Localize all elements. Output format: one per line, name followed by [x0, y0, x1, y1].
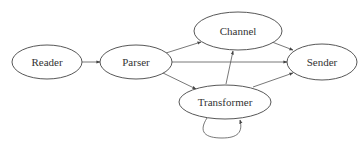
node-sender[interactable]: Sender: [287, 44, 357, 80]
node-parser[interactable]: Parser: [100, 45, 172, 79]
edge-parser-transformer: [163, 73, 196, 89]
edge-transformer-sender: [253, 73, 293, 87]
node-label: Reader: [31, 56, 62, 68]
graph-svg: Reader Parser Channel Sender Transformer: [0, 0, 363, 147]
node-label: Parser: [122, 56, 150, 68]
edge-transformer-self-loop: [203, 118, 241, 138]
diagram-canvas: Reader Parser Channel Sender Transformer: [0, 0, 363, 147]
edge-parser-channel: [166, 42, 201, 53]
node-label: Transformer: [198, 96, 253, 108]
edge-channel-sender: [272, 42, 293, 50]
node-transformer[interactable]: Transformer: [179, 85, 271, 119]
edge-transformer-channel: [226, 51, 233, 84]
node-reader[interactable]: Reader: [12, 45, 82, 79]
node-label: Channel: [220, 25, 257, 37]
node-label: Sender: [307, 56, 338, 68]
node-channel[interactable]: Channel: [194, 12, 282, 50]
